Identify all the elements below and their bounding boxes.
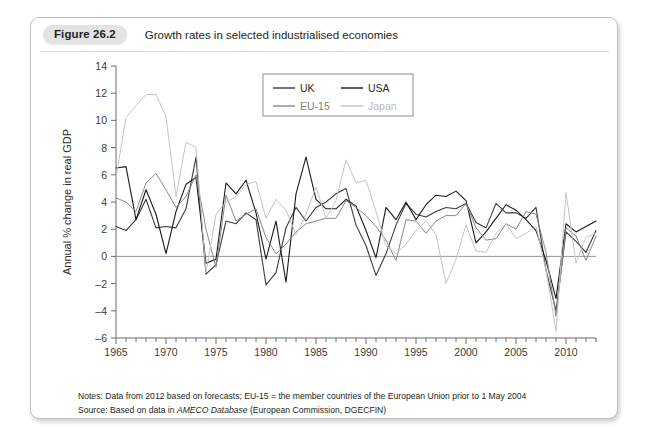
x-tick-label: 1975 [204,346,228,358]
figure-page: Figure 26.2 Growth rates in selected ind… [0,0,651,444]
series-line-usa [116,157,596,298]
x-tick-label: 2005 [504,346,528,358]
y-tick-label: 14 [95,60,107,72]
x-tick-label: 2010 [554,346,578,358]
x-tick-label: 1990 [354,346,378,358]
y-tick-label: 12 [95,87,107,99]
y-tick-label: 0 [101,250,107,262]
growth-rates-line-chart: –6–4–20246810121419651970197519801985199… [41,52,609,372]
y-tick-label: 8 [101,142,107,154]
figure-title: Growth rates in selected industrialised … [145,29,398,41]
y-tick-label: 10 [95,114,107,126]
source-suffix: (European Commission, DGECFIN) [248,405,387,415]
y-tick-label: 2 [101,223,107,235]
figure-header: Figure 26.2 Growth rates in selected ind… [31,18,617,51]
notes-text: Notes: Data from 2012 based on forecasts… [78,391,526,401]
legend-label-usa: USA [368,82,390,94]
legend-label-eu-15: EU-15 [300,100,330,112]
chart-plot-area: –6–4–20246810121419651970197519801985199… [41,52,609,372]
x-tick-label: 1985 [304,346,328,358]
y-tick-label: 6 [101,169,107,181]
legend-label-japan: Japan [368,100,397,112]
source-line: Source: Based on data in AMECO Database … [78,403,608,417]
source-prefix: Source: Based on data in [78,405,177,415]
x-tick-label: 1995 [404,346,428,358]
figure-number-badge: Figure 26.2 [43,25,127,44]
legend-label-uk: UK [300,82,315,94]
x-tick-label: 2000 [454,346,478,358]
series-line-eu-15 [116,173,596,316]
y-tick-label: 4 [101,196,107,208]
y-tick-label: –6 [95,332,107,344]
figure-notes: Notes: Data from 2012 based on forecasts… [78,389,608,417]
y-tick-label: –2 [95,278,107,290]
y-axis-title: Annual % change in real GDP [61,129,73,275]
source-italic-title: AMECO Database [177,405,248,415]
notes-line: Notes: Data from 2012 based on forecasts… [78,389,608,403]
y-tick-label: –4 [95,305,107,317]
x-tick-label: 1970 [154,346,178,358]
figure-card: Figure 26.2 Growth rates in selected ind… [30,17,618,419]
x-tick-label: 1980 [254,346,278,358]
x-tick-label: 1965 [104,346,128,358]
series-line-japan [116,95,596,332]
